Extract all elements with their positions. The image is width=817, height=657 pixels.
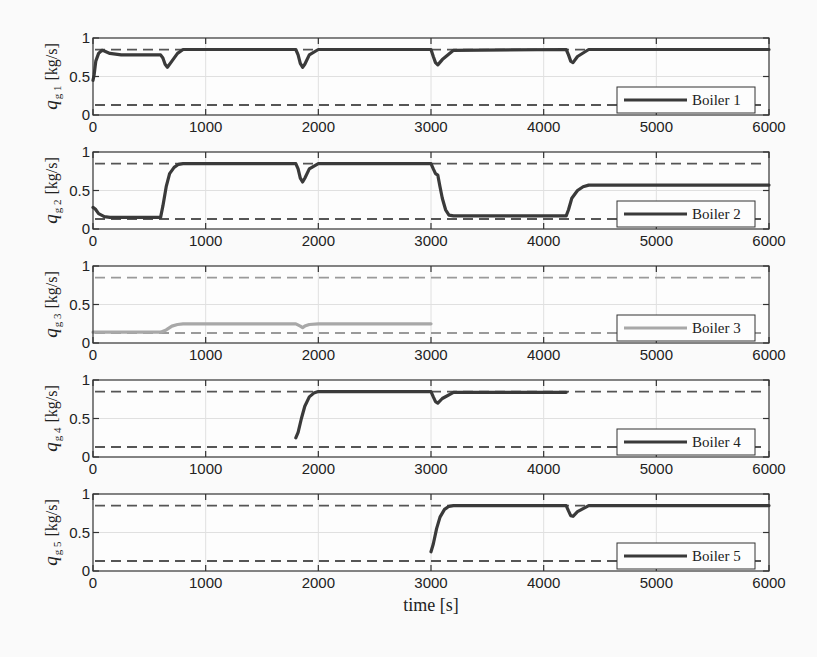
x-tick-label: 1000 <box>189 574 222 591</box>
y-tick-label: 0.5 <box>69 410 90 427</box>
y-tick-label: 0 <box>82 334 90 351</box>
x-tick-label: 0 <box>89 460 97 477</box>
x-tick-label: 0 <box>89 232 97 249</box>
y-tick-label: 0 <box>82 220 90 237</box>
y-tick-label: 1 <box>82 371 90 388</box>
y-tick-label: 1 <box>82 29 90 46</box>
x-tick-label: 1000 <box>189 346 222 363</box>
y-tick-label: 0.5 <box>69 296 90 313</box>
subplot-boiler-4: 010002000300040005000600000.51qg 4[kg/s]… <box>40 371 786 477</box>
x-tick-label: 6000 <box>752 232 785 249</box>
x-tick-label: 5000 <box>640 574 673 591</box>
y-tick-label: 0 <box>82 448 90 465</box>
y-axis-label: qg 5[kg/s] <box>40 499 63 566</box>
x-tick-label: 3000 <box>414 460 447 477</box>
y-tick-label: 0.5 <box>69 68 90 85</box>
subplot-boiler-3: 010002000300040005000600000.51qg 3[kg/s]… <box>40 257 786 363</box>
legend-label: Boiler 1 <box>692 92 741 108</box>
y-axis-label: qg 2[kg/s] <box>40 157 63 224</box>
y-tick-label: 1 <box>82 143 90 160</box>
legend-label: Boiler 2 <box>692 206 741 222</box>
x-tick-label: 5000 <box>640 232 673 249</box>
subplot-boiler-5: 010002000300040005000600000.51qg 5[kg/s]… <box>40 485 786 591</box>
figure: 010002000300040005000600000.51qg 1[kg/s]… <box>0 0 817 657</box>
y-tick-label: 1 <box>82 257 90 274</box>
x-tick-label: 0 <box>89 574 97 591</box>
x-tick-label: 5000 <box>640 460 673 477</box>
y-tick-label: 0.5 <box>69 524 90 541</box>
y-tick-label: 1 <box>82 485 90 502</box>
y-tick-label: 0 <box>82 562 90 579</box>
x-tick-label: 0 <box>89 346 97 363</box>
legend: Boiler 3 <box>617 315 755 341</box>
x-tick-label: 4000 <box>527 574 560 591</box>
x-tick-label: 1000 <box>189 118 222 135</box>
y-tick-label: 0.5 <box>69 182 90 199</box>
x-tick-label: 5000 <box>640 346 673 363</box>
x-tick-label: 4000 <box>527 346 560 363</box>
x-tick-label: 2000 <box>302 232 335 249</box>
legend-label: Boiler 3 <box>692 320 741 336</box>
legend: Boiler 1 <box>617 87 755 113</box>
x-tick-label: 2000 <box>302 460 335 477</box>
x-tick-label: 1000 <box>189 460 222 477</box>
x-axis-label: time [s] <box>403 595 459 615</box>
x-tick-label: 3000 <box>414 346 447 363</box>
x-tick-label: 3000 <box>414 232 447 249</box>
legend-label: Boiler 4 <box>692 434 741 450</box>
x-tick-label: 4000 <box>527 232 560 249</box>
y-tick-label: 0 <box>82 106 90 123</box>
x-tick-label: 0 <box>89 118 97 135</box>
x-tick-label: 6000 <box>752 118 785 135</box>
legend: Boiler 5 <box>617 543 755 569</box>
legend: Boiler 4 <box>617 429 755 455</box>
legend: Boiler 2 <box>617 201 755 227</box>
y-axis-label: qg 4[kg/s] <box>40 385 63 452</box>
subplot-boiler-1: 010002000300040005000600000.51qg 1[kg/s]… <box>40 29 786 135</box>
x-tick-label: 4000 <box>527 460 560 477</box>
x-tick-label: 3000 <box>414 574 447 591</box>
x-tick-label: 6000 <box>752 346 785 363</box>
x-tick-label: 4000 <box>527 118 560 135</box>
x-tick-label: 5000 <box>640 118 673 135</box>
subplot-boiler-2: 010002000300040005000600000.51qg 2[kg/s]… <box>40 143 786 249</box>
legend-label: Boiler 5 <box>692 548 741 564</box>
x-tick-label: 6000 <box>752 460 785 477</box>
x-tick-label: 3000 <box>414 118 447 135</box>
x-tick-label: 2000 <box>302 346 335 363</box>
x-tick-label: 1000 <box>189 232 222 249</box>
x-tick-label: 2000 <box>302 574 335 591</box>
x-tick-label: 2000 <box>302 118 335 135</box>
y-axis-label: qg 1[kg/s] <box>40 43 63 110</box>
x-tick-label: 6000 <box>752 574 785 591</box>
y-axis-label: qg 3[kg/s] <box>40 271 63 338</box>
